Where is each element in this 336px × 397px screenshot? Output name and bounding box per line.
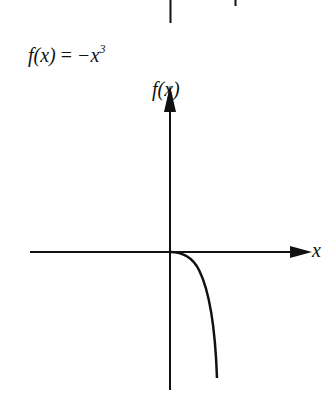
y-axis-label: f(x) — [152, 78, 180, 101]
function-curve — [170, 252, 217, 378]
title-rhs: −x — [77, 44, 99, 66]
x-axis-label: x — [312, 239, 321, 262]
title-equals: = — [56, 44, 77, 66]
function-title: f(x) = −x3 — [28, 44, 105, 67]
title-lhs: f(x) — [28, 44, 56, 66]
x-axis-arrowhead — [290, 246, 312, 258]
title-exponent: 3 — [99, 42, 105, 56]
